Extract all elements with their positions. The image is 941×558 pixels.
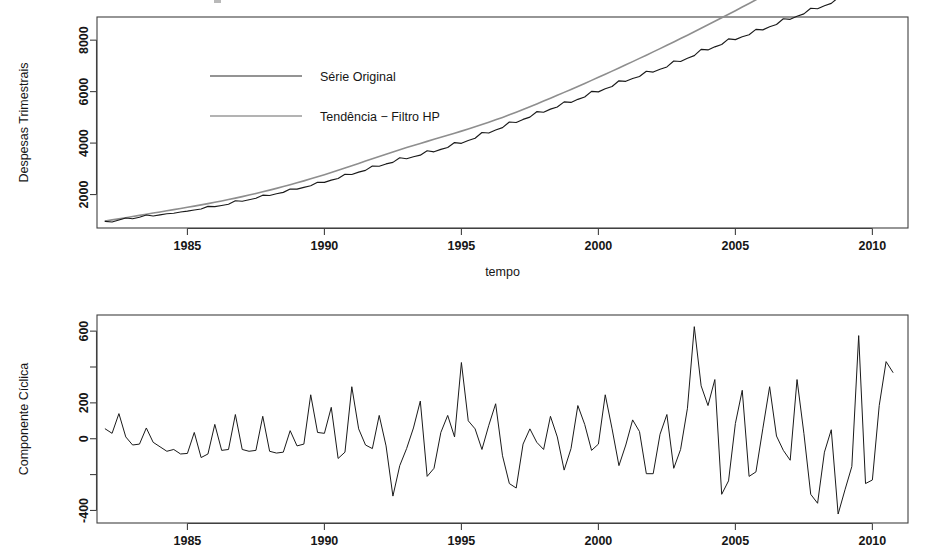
x-tick-label-1995: 1995	[447, 534, 475, 548]
x-tick-label-1990: 1990	[311, 239, 339, 253]
despesas-trimestrais-plot: 2000400060008000198519901995200020052010…	[0, 0, 941, 290]
plot-frame	[97, 17, 908, 228]
x-tick-label-1995: 1995	[447, 239, 475, 253]
figure-root: 2000400060008000198519901995200020052010…	[0, 0, 941, 558]
scan-artifact	[214, 0, 221, 3]
x-tick-label-1985: 1985	[174, 239, 202, 253]
x-tick-label-2000: 2000	[584, 239, 612, 253]
legend-label-serie-original: Série Original	[320, 70, 396, 84]
x-tick-label-2005: 2005	[721, 239, 749, 253]
x-tick-label-2000: 2000	[584, 534, 612, 548]
y-tick-label-4000: 4000	[77, 129, 91, 157]
trend-hp-line	[105, 0, 893, 221]
x-tick-label-2005: 2005	[721, 534, 749, 548]
y-tick-label-2000: 2000	[77, 181, 91, 209]
plot-frame	[97, 315, 908, 523]
y-tick-label-200: 200	[77, 392, 91, 413]
y-tick-label-0: 0	[77, 435, 91, 442]
panel-bottom: -4000200600198519901995200020052010Compo…	[0, 290, 941, 558]
componente-ciclica-plot: -4000200600198519901995200020052010Compo…	[0, 290, 941, 558]
y-axis-title: Despesas Trimestrais	[17, 62, 31, 182]
x-tick-label-2010: 2010	[858, 534, 886, 548]
y-tick-label-8000: 8000	[77, 26, 91, 54]
y-tick-label-600: 600	[77, 321, 91, 342]
x-axis-title: tempo	[485, 265, 520, 279]
serie-original-line	[105, 0, 893, 222]
componente-ciclica-line	[105, 327, 893, 514]
x-tick-label-2010: 2010	[858, 239, 886, 253]
x-tick-label-1990: 1990	[311, 534, 339, 548]
y-tick-label-6000: 6000	[77, 78, 91, 106]
x-tick-label-1985: 1985	[174, 534, 202, 548]
y-tick-label--400: -400	[77, 498, 91, 523]
legend-label-tendencia-hp: Tendência − Filtro HP	[320, 110, 440, 124]
y-axis-title: Componente Cíclica	[17, 363, 31, 476]
panel-top: 2000400060008000198519901995200020052010…	[0, 0, 941, 290]
